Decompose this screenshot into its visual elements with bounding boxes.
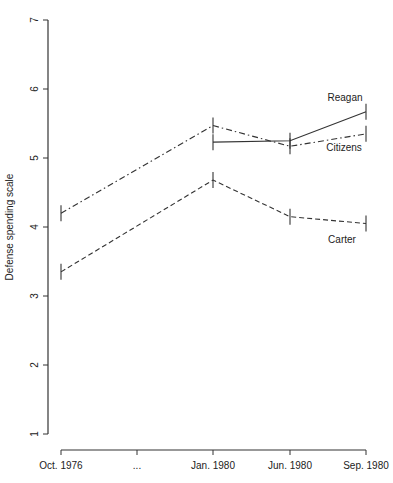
y-tick-label: 4 [29,224,40,230]
y-tick-label: 3 [29,293,40,299]
x-tick-label: Jan. 1980 [191,460,235,471]
series-label-reagan: Reagan [327,92,362,103]
x-tick-label: ... [133,460,141,471]
y-tick-label: 7 [29,17,40,23]
y-tick-label: 2 [29,362,40,368]
line-chart: 1234567Defense spending scaleOct. 1976..… [0,0,393,483]
y-tick-label: 1 [29,431,40,437]
series-label-citizens: Citizens [326,142,362,153]
y-axis-label: Defense spending scale [4,173,15,280]
x-tick-label: Sep. 1980 [343,460,389,471]
series-line-carter [61,180,366,272]
x-tick-label: Oct. 1976 [39,460,83,471]
series-label-carter: Carter [328,234,356,245]
y-tick-label: 6 [29,86,40,92]
y-tick-label: 5 [29,155,40,161]
x-tick-label: Jun. 1980 [268,460,312,471]
